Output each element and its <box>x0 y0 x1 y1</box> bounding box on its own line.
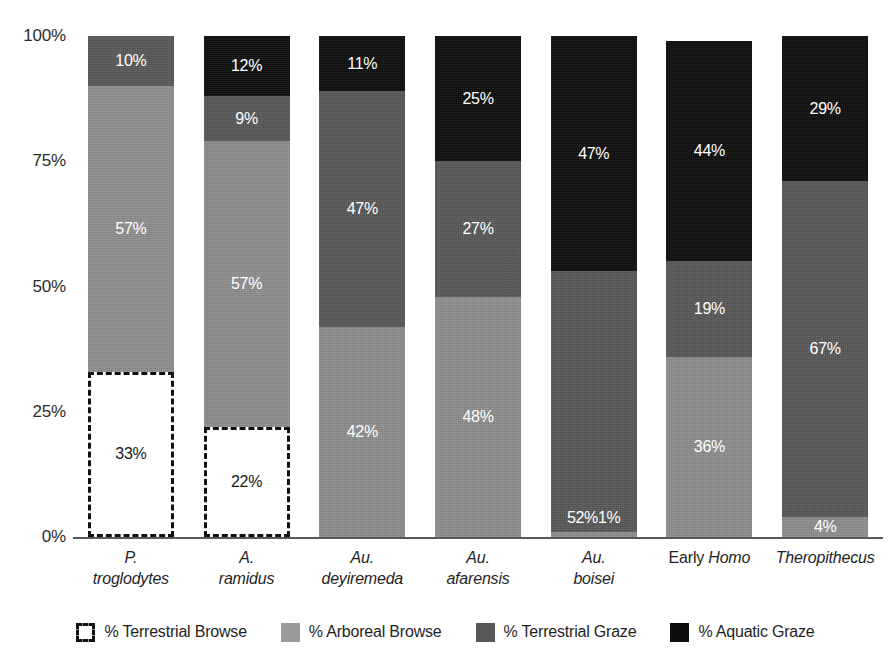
x-axis-label-2: A.ramidus <box>189 547 305 589</box>
legend-label: % Arboreal Browse <box>309 623 442 641</box>
bar-segment-terrestrial-browse[interactable]: 22% <box>204 427 290 537</box>
plot-area: 33%57%10%22%57%9%12%42%47%11%48%27%25%52… <box>73 36 883 537</box>
legend-swatch-aquatic-graze-icon <box>670 623 689 642</box>
bar-au-afarensis[interactable]: 48%27%25% <box>435 36 521 537</box>
segment-value-label: 19% <box>694 301 725 317</box>
bar-segment-arboreal-browse[interactable]: 48% <box>435 297 521 537</box>
segment-value-label: 25% <box>462 91 493 107</box>
bar-segment-aquatic-graze[interactable]: 44% <box>666 41 752 261</box>
bar-segment-terrestrial-graze[interactable]: 67% <box>782 181 868 517</box>
bar-segment-arboreal-browse[interactable]: 57% <box>204 141 290 427</box>
x-axis-label-line1: P. <box>73 547 189 568</box>
bar-segment-arboreal-browse[interactable]: 4% <box>782 517 868 537</box>
bar-au-deyiremeda[interactable]: 42%47%11% <box>319 36 405 537</box>
bar-theropithecus[interactable]: 4%67%29% <box>782 36 868 537</box>
bar-early-homo[interactable]: 36%19%44% <box>666 36 752 537</box>
bar-a-ramidus[interactable]: 22%57%9%12% <box>204 36 290 537</box>
x-axis-label-line2: ramidus <box>189 568 305 589</box>
legend-swatch-arboreal-browse-icon <box>281 623 300 642</box>
bar-segment-terrestrial-graze[interactable]: 10% <box>88 36 174 86</box>
bar-au-boisei[interactable]: 52%1%47% <box>551 36 637 537</box>
x-axis-label-line1: A. <box>189 547 305 568</box>
y-tick-label: 50% <box>33 277 66 297</box>
bar-segment-aquatic-graze[interactable]: 11% <box>319 36 405 91</box>
bar-segment-terrestrial-browse[interactable]: 33% <box>88 372 174 537</box>
legend-label: % Terrestrial Browse <box>104 623 246 641</box>
segment-value-label: 47% <box>347 201 378 217</box>
segment-value-label: 52% <box>567 510 598 526</box>
segment-value-label: 44% <box>694 143 725 159</box>
bar-segment-aquatic-graze[interactable]: 12% <box>204 36 290 96</box>
bar-p-troglodytes[interactable]: 33%57%10% <box>88 36 174 537</box>
x-axis-label-5: Au.boisei <box>536 547 652 589</box>
segment-value-label: 9% <box>235 111 258 127</box>
x-axis-label-3: Au.deyiremeda <box>304 547 420 589</box>
x-axis-label-4: Au.afarensis <box>420 547 536 589</box>
y-axis: 100%75%50%25%0% <box>0 0 72 560</box>
x-axis-label-line2: boisei <box>536 568 652 589</box>
x-axis-label-line1: Au. <box>420 547 536 568</box>
legend-item-arboreal-browse[interactable]: % Arboreal Browse <box>281 623 442 642</box>
bar-segment-terrestrial-graze[interactable]: 47% <box>319 91 405 326</box>
segment-value-label: 48% <box>462 409 493 425</box>
segment-value-label: 11% <box>347 56 377 72</box>
x-axis-label-line1: Au. <box>536 547 652 568</box>
legend-item-terrestrial-graze[interactable]: % Terrestrial Graze <box>476 623 637 642</box>
segment-value-label: 47% <box>578 146 609 162</box>
segment-value-label: 12% <box>231 58 262 74</box>
segment-value-label: 22% <box>231 474 262 490</box>
x-axis-label-line2: afarensis <box>420 568 536 589</box>
x-axis-labels: P.troglodytesA.ramidusAu.deyiremedaAu.af… <box>73 547 883 599</box>
legend-swatch-terrestrial-graze-icon <box>476 623 495 642</box>
segment-value-label: 1% <box>598 510 621 526</box>
legend-item-aquatic-graze[interactable]: % Aquatic Graze <box>670 623 814 642</box>
y-tick-label: 25% <box>33 402 66 422</box>
chart-legend: % Terrestrial Browse% Arboreal Browse% T… <box>0 612 891 652</box>
bar-segment-arboreal-browse[interactable]: 42% <box>319 327 405 537</box>
bar-segment-terrestrial-graze[interactable]: 9% <box>204 96 290 141</box>
y-tick-label: 75% <box>33 151 66 171</box>
y-tick-label: 0% <box>42 527 66 547</box>
x-axis-line <box>73 537 883 539</box>
x-axis-label-1: P.troglodytes <box>73 547 189 589</box>
bar-segment-terrestrial-graze[interactable]: 27% <box>435 161 521 296</box>
segment-value-label: 33% <box>115 446 146 462</box>
segment-value-label: 57% <box>231 276 262 292</box>
x-axis-label-6: Early Homo <box>652 547 768 568</box>
legend-label: % Terrestrial Graze <box>504 623 637 641</box>
x-axis-label-7: Theropithecus <box>767 547 883 568</box>
legend-swatch-terrestrial-browse-icon <box>76 623 95 642</box>
segment-value-label: 27% <box>462 221 493 237</box>
x-axis-label-prefix: Early <box>669 549 709 566</box>
bar-segment-aquatic-graze[interactable]: 25% <box>435 36 521 161</box>
segment-value-label: 42% <box>347 424 378 440</box>
bar-segment-aquatic-graze[interactable]: 47% <box>551 36 637 271</box>
segment-value-label: 29% <box>810 101 841 117</box>
bar-segment-aquatic-graze[interactable]: 29% <box>782 36 868 181</box>
x-axis-label-line2: deyiremeda <box>304 568 420 589</box>
bar-segment-terrestrial-graze[interactable]: 19% <box>666 261 752 356</box>
bar-segment-arboreal-browse[interactable]: 36% <box>666 357 752 537</box>
segment-value-label: 57% <box>115 221 146 237</box>
segment-value-label: 36% <box>694 439 725 455</box>
legend-label: % Aquatic Graze <box>698 623 814 641</box>
bar-segment-terrestrial-graze[interactable]: 52%1% <box>551 271 637 532</box>
segment-value-label: 10% <box>115 53 146 69</box>
x-axis-label-line1: Theropithecus <box>767 547 883 568</box>
segment-value-label: 4% <box>814 519 837 535</box>
y-tick-label: 100% <box>23 26 66 46</box>
x-axis-label-line1: Au. <box>304 547 420 568</box>
bar-segment-arboreal-browse[interactable]: 57% <box>88 86 174 372</box>
legend-item-terrestrial-browse[interactable]: % Terrestrial Browse <box>76 623 246 642</box>
stacked-bar-chart: 100%75%50%25%0% 33%57%10%22%57%9%12%42%4… <box>0 0 891 664</box>
x-axis-label-line1: Early Homo <box>652 547 768 568</box>
x-axis-label-line2: troglodytes <box>73 568 189 589</box>
segment-value-label: 67% <box>810 341 841 357</box>
